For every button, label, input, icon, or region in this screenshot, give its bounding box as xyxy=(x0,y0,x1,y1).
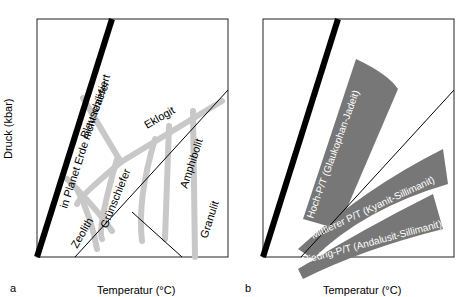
svg-text:Amphibolit: Amphibolit xyxy=(177,137,204,190)
svg-text:in Planet Erde nicht realisier: in Planet Erde nicht realisiert xyxy=(57,73,112,210)
chart-svg: Zeolith Grünschiefer Blauschiefer Eklogi… xyxy=(0,0,476,297)
panel-b: Hoch-P/T (Glaukophan-Jadeit) Mittlerer P… xyxy=(263,19,454,296)
figure: Zeolith Grünschiefer Blauschiefer Eklogi… xyxy=(0,0,476,297)
panel-a: Zeolith Grünschiefer Blauschiefer Eklogi… xyxy=(2,19,228,296)
svg-text:b: b xyxy=(245,282,251,294)
svg-text:Granulit: Granulit xyxy=(197,199,220,239)
svg-text:Temperatur (°C): Temperatur (°C) xyxy=(97,284,175,296)
svg-text:Temperatur (°C): Temperatur (°C) xyxy=(323,284,401,296)
svg-text:Druck (kbar): Druck (kbar) xyxy=(2,98,14,159)
svg-text:a: a xyxy=(10,282,17,294)
